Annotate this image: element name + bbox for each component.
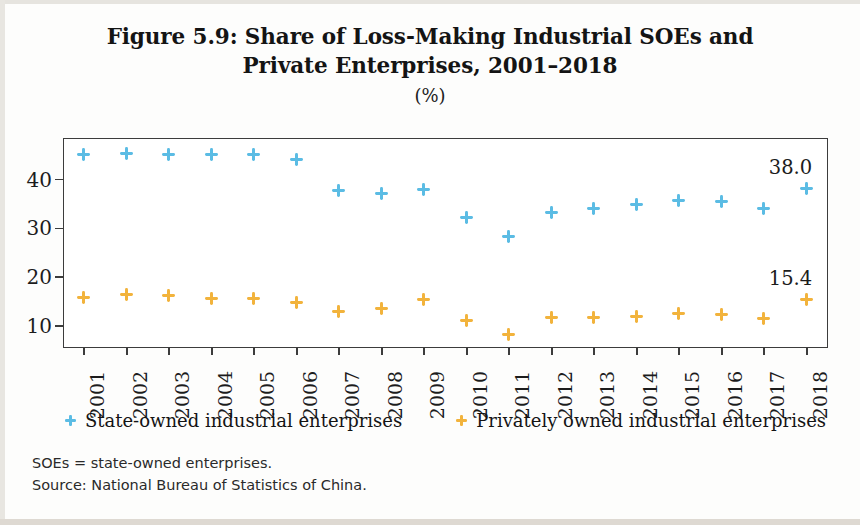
x-tick-label: 2011: [498, 358, 520, 406]
chart-legend: State-owned industrial enterprisesPrivat…: [63, 410, 828, 431]
x-tick-mark: [636, 348, 638, 355]
data-point-marker: [162, 148, 175, 161]
x-tick-label: 2004: [201, 358, 223, 406]
data-point-marker: [162, 289, 175, 302]
figure-page: Figure 5.9: Share of Loss-Making Industr…: [0, 0, 860, 525]
x-tick-mark: [253, 348, 255, 355]
y-tick-label: 30: [27, 216, 52, 240]
figure-title-line-1: Figure 5.9: Share of Loss-Making Industr…: [0, 22, 860, 51]
data-point-marker: [290, 153, 303, 166]
x-tick-mark: [296, 348, 298, 355]
x-tick-label: 2001: [73, 358, 95, 406]
x-tick-label: 2008: [371, 358, 393, 406]
x-tick-mark: [83, 348, 85, 355]
data-point-marker: [715, 195, 728, 208]
data-point-marker: [77, 148, 90, 161]
legend-item-label: State-owned industrial enterprises: [85, 410, 402, 431]
x-tick-mark: [168, 348, 170, 355]
x-tick-label: 2017: [753, 358, 775, 406]
x-tick-mark: [806, 348, 808, 355]
data-point-marker: [205, 148, 218, 161]
legend-marker-icon: [456, 415, 467, 426]
data-point-marker: [120, 147, 133, 160]
data-point-marker: [545, 311, 558, 324]
x-tick-label: 2016: [711, 358, 733, 406]
data-point-marker: [545, 206, 558, 219]
legend-marker-icon: [65, 415, 76, 426]
figure-title-block: Figure 5.9: Share of Loss-Making Industr…: [0, 22, 860, 109]
plot-area: [63, 138, 828, 348]
legend-item-1[interactable]: State-owned industrial enterprises: [65, 410, 402, 431]
x-tick-label: 2018: [796, 358, 818, 406]
x-tick-label: 2015: [668, 358, 690, 406]
x-tick-mark: [678, 348, 680, 355]
endpoint-value-label: 38.0: [769, 156, 812, 179]
x-tick-mark: [466, 348, 468, 355]
data-point-marker: [630, 310, 643, 323]
data-point-marker: [715, 308, 728, 321]
data-point-marker: [587, 202, 600, 215]
data-point-marker: [332, 184, 345, 197]
x-tick-label: 2006: [286, 358, 308, 406]
data-point-marker: [502, 328, 515, 341]
x-tick-mark: [593, 348, 595, 355]
x-tick-label: 2002: [116, 358, 138, 406]
data-point-marker: [800, 293, 813, 306]
y-tick-label: 20: [27, 265, 52, 289]
x-tick-mark: [423, 348, 425, 355]
data-point-marker: [290, 296, 303, 309]
data-point-marker: [205, 292, 218, 305]
data-point-marker: [757, 202, 770, 215]
x-tick-label: 2013: [583, 358, 605, 406]
figure-subtitle-units: (%): [0, 83, 860, 109]
data-point-marker: [587, 311, 600, 324]
data-point-marker: [417, 183, 430, 196]
data-point-marker: [672, 194, 685, 207]
x-tick-label: 2005: [243, 358, 265, 406]
page-edge-bottom: [0, 519, 860, 525]
data-point-marker: [247, 148, 260, 161]
data-point-marker: [757, 312, 770, 325]
data-point-marker: [417, 293, 430, 306]
data-point-marker: [630, 198, 643, 211]
page-edge-top: [0, 0, 860, 4]
x-tick-mark: [126, 348, 128, 355]
x-tick-mark: [211, 348, 213, 355]
footnote-abbreviation: SOEs = state-owned enterprises.: [32, 452, 832, 474]
data-point-marker: [800, 182, 813, 195]
y-axis-labels: 10203040: [0, 0, 52, 525]
data-point-marker: [672, 307, 685, 320]
data-point-marker: [502, 230, 515, 243]
x-tick-label: 2007: [328, 358, 350, 406]
footnote-source: Source: National Bureau of Statistics of…: [32, 474, 832, 496]
x-tick-mark: [721, 348, 723, 355]
figure-footnotes: SOEs = state-owned enterprises. Source: …: [32, 452, 832, 496]
x-tick-mark: [338, 348, 340, 355]
x-tick-mark: [508, 348, 510, 355]
data-point-marker: [375, 302, 388, 315]
figure-title-line-2: Private Enterprises, 2001–2018: [0, 51, 860, 80]
endpoint-value-label: 15.4: [769, 267, 812, 290]
x-tick-label: 2010: [456, 358, 478, 406]
x-tick-mark: [763, 348, 765, 355]
legend-item-2[interactable]: Privately owned industrial enterprises: [456, 410, 826, 431]
data-point-marker: [332, 305, 345, 318]
data-point-marker: [77, 291, 90, 304]
x-tick-label: 2003: [158, 358, 180, 406]
x-tick-mark: [381, 348, 383, 355]
data-point-marker: [460, 211, 473, 224]
data-point-marker: [247, 292, 260, 305]
y-tick-label: 10: [27, 314, 52, 338]
legend-item-label: Privately owned industrial enterprises: [476, 410, 826, 431]
data-point-marker: [460, 314, 473, 327]
x-tick-label: 2014: [626, 358, 648, 406]
x-tick-label: 2012: [541, 358, 563, 406]
data-point-marker: [375, 187, 388, 200]
y-tick-label: 40: [27, 168, 52, 192]
x-tick-label: 2009: [413, 358, 435, 406]
data-point-marker: [120, 288, 133, 301]
x-tick-mark: [551, 348, 553, 355]
